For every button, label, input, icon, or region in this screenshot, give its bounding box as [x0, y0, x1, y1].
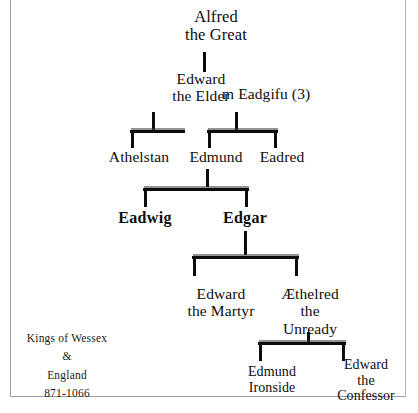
person-node-edmund-ironside: Edmund Ironside: [228, 364, 316, 395]
connector-bar-to-athelstan: [131, 132, 134, 148]
person-node-edgar: Edgar: [214, 209, 276, 227]
person-node-athelstan: Athelstan: [101, 148, 177, 165]
connector-bar-to-edmund: [208, 132, 211, 148]
connector-bar-to-edgar: [245, 190, 248, 207]
connector-edmund-down: [206, 169, 209, 187]
person-node-aethelred-the-unready: Æthelred the Unready: [263, 285, 357, 337]
diagram-caption: Kings of Wessex & England 871-1066: [12, 329, 122, 403]
connector-bar-to-eadred: [274, 132, 277, 148]
sibling-bar-athelstan: [130, 130, 185, 133]
connector-bar-to-aethelred: [295, 258, 298, 276]
sibling-bar-ironside-confessor: [258, 342, 346, 345]
connector-edgar-down: [244, 231, 247, 255]
person-node-edward-the-martyr: Edward the Martyr: [165, 285, 277, 320]
person-node-alfred: Alfred the Great: [156, 8, 276, 45]
person-node-edmund: Edmund: [180, 148, 252, 165]
sibling-bar-edmund-eadred: [207, 130, 278, 133]
connector-bar-to-edmund-ironside: [259, 344, 262, 361]
sibling-bar-eadwig-edgar: [143, 188, 249, 191]
person-node-eadred: Eadred: [249, 148, 315, 165]
connector-bar-to-eadwig: [144, 190, 147, 207]
person-node-eadgifu-spouse: m Eadgifu (3): [222, 85, 382, 102]
sibling-bar-martyr-aethelred: [192, 256, 299, 259]
person-node-edward-the-confessor: Edward the Confessor: [325, 357, 407, 404]
connector-alfred-to-edward-elder: [203, 52, 206, 72]
family-tree-diagram: Alfred the Great Edward the Elder m Eadg…: [0, 0, 418, 413]
person-node-eadwig: Eadwig: [110, 209, 180, 227]
connector-bar-to-edward-martyr: [193, 258, 196, 276]
